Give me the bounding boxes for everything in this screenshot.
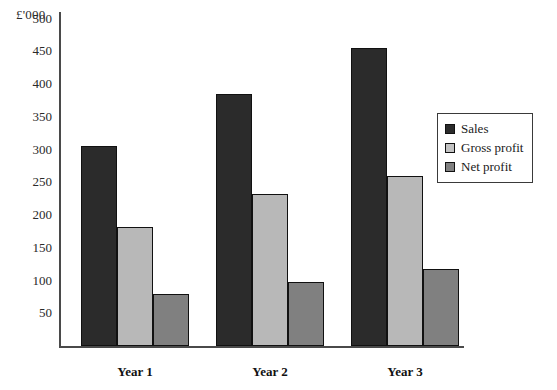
legend-label-sales: Sales <box>461 121 488 137</box>
y-axis-tick-label: 500 <box>33 11 53 27</box>
x-axis-label-year-1: Year 1 <box>117 364 153 380</box>
y-axis-tick-label: 350 <box>33 109 53 125</box>
bar-year-1-sales <box>81 146 117 346</box>
y-axis-tick-label: 200 <box>33 207 53 223</box>
y-axis-tick-label: 450 <box>33 43 53 59</box>
plot-area: 50100150200250300350400450500 Year 1Year… <box>59 12 464 348</box>
y-axis-tick-label: 50 <box>39 305 52 321</box>
legend-label-gross-profit: Gross profit <box>461 140 523 156</box>
legend-swatch-sales-icon <box>445 124 455 134</box>
y-axis-tick-label: 300 <box>33 142 53 158</box>
bar-year-2-sales <box>216 94 252 346</box>
bars-layer <box>59 12 464 348</box>
y-axis-tick-label: 150 <box>33 240 53 256</box>
chart-legend: Sales Gross profit Net profit <box>437 113 533 183</box>
legend-swatch-net-profit-icon <box>445 162 455 172</box>
y-axis-tick-label: 250 <box>33 174 53 190</box>
legend-swatch-gross-profit-icon <box>445 143 455 153</box>
bar-year-3-net-profit <box>423 269 459 346</box>
bar-year-3-sales <box>351 48 387 346</box>
legend-item-net-profit: Net profit <box>445 157 523 176</box>
bar-chart-figure: £'000 50100150200250300350400450500 Year… <box>0 0 557 390</box>
bar-year-1-net-profit <box>153 294 189 346</box>
y-axis-tick-label: 100 <box>33 273 53 289</box>
legend-item-sales: Sales <box>445 119 523 138</box>
legend-label-net-profit: Net profit <box>461 159 512 175</box>
x-axis-label-year-2: Year 2 <box>252 364 288 380</box>
bar-year-2-gross-profit <box>252 194 288 346</box>
bar-year-3-gross-profit <box>387 176 423 346</box>
y-axis-tick-label: 400 <box>33 76 53 92</box>
x-axis-label-year-3: Year 3 <box>387 364 423 380</box>
bar-year-1-gross-profit <box>117 227 153 346</box>
bar-year-2-net-profit <box>288 282 324 346</box>
legend-item-gross-profit: Gross profit <box>445 138 523 157</box>
